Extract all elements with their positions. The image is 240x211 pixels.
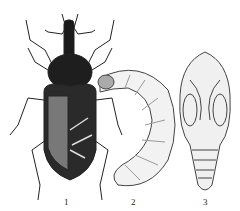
panel-label-2: 2 bbox=[131, 197, 136, 207]
pupa bbox=[180, 52, 231, 190]
weevil-life-stages-figure bbox=[0, 0, 240, 211]
larva bbox=[98, 70, 175, 185]
panel-label-1: 1 bbox=[64, 197, 69, 207]
adult-weevil bbox=[10, 14, 122, 200]
panel-label-3: 3 bbox=[203, 197, 208, 207]
